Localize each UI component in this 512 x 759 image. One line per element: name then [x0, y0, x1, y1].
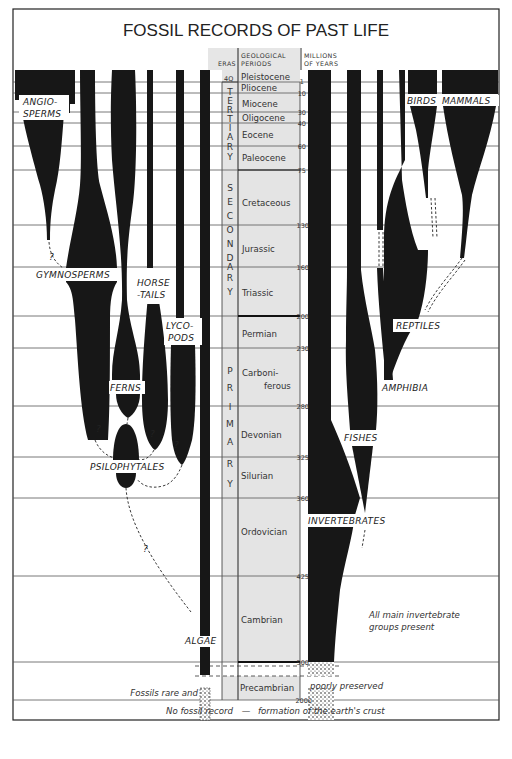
period-miocene: Miocene: [242, 99, 278, 109]
label-fishes: FISHES: [344, 433, 378, 443]
svg-text:425: 425: [297, 573, 309, 581]
period-devonian: Devonian: [241, 430, 282, 440]
svg-text:1: 1: [300, 78, 304, 86]
note-invertebrates-2: groups present: [369, 622, 435, 632]
footer-dash: —: [242, 706, 251, 716]
svg-text:?: ?: [174, 440, 179, 450]
svg-text:R: R: [227, 383, 233, 393]
svg-text:?: ?: [96, 424, 101, 434]
svg-text:A: A: [227, 132, 234, 142]
footer-left: No fossil record: [166, 706, 233, 716]
chart-title: FOSSIL RECORDS OF PAST LIFE: [123, 21, 389, 40]
header-periods-2: PERIODS: [241, 60, 272, 67]
label-amphibia: AMPHIBIA: [381, 383, 428, 393]
period-carboniferous-2: ferous: [264, 381, 291, 391]
svg-text:60: 60: [298, 143, 306, 151]
svg-text:C: C: [227, 211, 233, 221]
svg-text:?: ?: [150, 429, 155, 439]
label-mammals: MAMMALS: [442, 96, 490, 106]
svg-text:P: P: [227, 366, 233, 376]
svg-text:O: O: [226, 225, 233, 235]
svg-text:75: 75: [298, 167, 306, 175]
label-horsetails-1: HORSE: [137, 278, 170, 288]
label-psilophytales: PSILOPHYTALES: [90, 462, 164, 472]
svg-text:Y: Y: [226, 287, 233, 297]
period-pliocene: Pliocene: [241, 83, 277, 93]
label-reptiles: REPTILES: [396, 321, 440, 331]
svg-text:R: R: [227, 142, 233, 152]
svg-text:2000: 2000: [295, 697, 312, 705]
svg-text:A: A: [227, 437, 234, 447]
period-oligocene: Oligocene: [242, 113, 285, 123]
label-lycopods-1: LYCO-: [166, 321, 194, 331]
header-eras: ERAS: [218, 60, 236, 67]
svg-text:500: 500: [297, 659, 309, 667]
period-silurian: Silurian: [241, 471, 273, 481]
header-years-1: MILLIONS: [304, 52, 337, 59]
label-ferns: FERNS: [110, 383, 141, 393]
label-angiosperms-1: ANGIO-: [22, 97, 58, 107]
period-pleistocene: Pleistocene: [241, 72, 290, 82]
svg-text:S: S: [227, 183, 233, 193]
svg-text:360: 360: [297, 495, 309, 503]
note-invertebrates-1: All main invertebrate: [368, 610, 460, 620]
svg-text:280: 280: [297, 403, 309, 411]
label-horsetails-2: -TAILS: [137, 290, 166, 300]
svg-text:I: I: [229, 402, 232, 412]
svg-text:10: 10: [298, 90, 306, 98]
svg-text:?: ?: [143, 544, 148, 554]
period-cretaceous: Cretaceous: [242, 198, 291, 208]
svg-text:230: 230: [297, 345, 309, 353]
svg-text:N: N: [227, 239, 234, 249]
period-cambrian: Cambrian: [241, 615, 283, 625]
period-jurassic: Jurassic: [241, 244, 275, 254]
note-precambrian-right: poorly preserved: [309, 681, 384, 691]
label-invertebrates: INVERTEBRATES: [308, 516, 385, 526]
period-triassic: Triassic: [241, 288, 274, 298]
svg-text:130: 130: [297, 222, 309, 230]
period-paleocene: Paleocene: [242, 153, 286, 163]
header-periods-1: GEOLOGICAL: [241, 52, 286, 59]
svg-text:?: ?: [49, 252, 54, 262]
svg-text:200: 200: [297, 313, 309, 321]
svg-text:325: 325: [297, 454, 309, 462]
period-carboniferous-1: Carboni-: [242, 368, 278, 378]
label-angiosperms-2: SPERMS: [23, 109, 61, 119]
svg-text:Y: Y: [226, 479, 233, 489]
footer-right: formation of the earth's crust: [258, 706, 385, 716]
svg-text:R: R: [227, 273, 233, 283]
label-algae: ALGAE: [184, 636, 217, 646]
era-secondary: S E C O N D A R Y: [226, 183, 234, 297]
svg-text:30: 30: [298, 109, 306, 117]
svg-text:A: A: [227, 262, 234, 272]
period-ordovician: Ordovician: [241, 527, 287, 537]
label-lycopods-2: PODS: [168, 333, 194, 343]
label-birds: BIRDS: [407, 96, 436, 106]
algae-shape: [200, 70, 210, 636]
header-years-2: OF YEARS: [304, 60, 338, 67]
label-gymnosperms: GYMNOSPERMS: [36, 270, 110, 280]
fossil-record-diagram: FOSSIL RECORDS OF PAST LIFE ERAS GEOLOGI…: [0, 0, 512, 759]
period-precambrian: Precambrian: [240, 683, 294, 693]
svg-text:160: 160: [297, 264, 309, 272]
period-eocene: Eocene: [242, 130, 273, 140]
svg-text:40: 40: [298, 120, 306, 128]
quaternary-marker: 4Q: [224, 75, 233, 83]
svg-text:R: R: [227, 459, 233, 469]
note-precambrian-left: Fossils rare and: [130, 688, 198, 698]
svg-text:M: M: [226, 419, 234, 429]
svg-text:Y: Y: [226, 152, 233, 162]
period-permian: Permian: [242, 329, 277, 339]
svg-text:E: E: [227, 197, 233, 207]
